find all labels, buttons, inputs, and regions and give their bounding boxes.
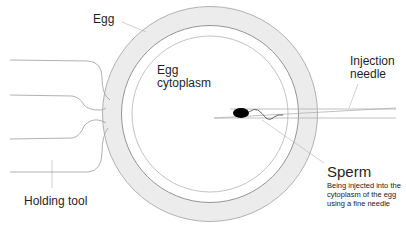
egg-leader bbox=[122, 22, 146, 32]
cytoplasm-label-line2: cytoplasm bbox=[157, 77, 211, 90]
sperm-head bbox=[233, 108, 249, 118]
holding-tool-mid-upper bbox=[10, 95, 106, 110]
sperm-desc-line1: Being injected into the bbox=[327, 181, 401, 190]
holding-tool-label: Holding tool bbox=[24, 195, 87, 208]
holding-tool-mid-lower bbox=[10, 120, 106, 139]
holding-tool-upper bbox=[10, 60, 110, 100]
egg-outer-ring bbox=[112, 16, 308, 212]
egg-inner-edge bbox=[122, 26, 299, 203]
egg-label: Egg bbox=[93, 13, 114, 26]
holding-tool-lower bbox=[10, 128, 108, 172]
needle-leader bbox=[349, 84, 358, 108]
sperm-label: Sperm bbox=[327, 164, 371, 180]
cytoplasm-membrane bbox=[132, 36, 288, 192]
sperm-desc-line2: cytoplasm of the egg bbox=[327, 190, 396, 199]
sperm-desc-line3: using a fine needle bbox=[327, 199, 390, 208]
needle-label-line2: needle bbox=[350, 68, 386, 81]
